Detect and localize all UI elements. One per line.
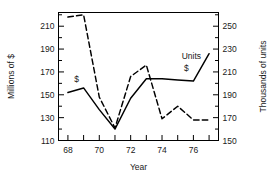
series-label-units: Units — [182, 51, 201, 61]
x-axis-tick-label: 70 — [95, 145, 105, 155]
left-axis-tick-label: 110 — [41, 136, 55, 146]
left-axis-title: Millions of $ — [6, 54, 16, 99]
right-axis-tick-label: 190 — [223, 90, 237, 100]
right-axis-tick-label: 150 — [223, 136, 237, 146]
x-axis-tick-label: 74 — [157, 145, 167, 155]
chart-container: 110130150170190210 150170190210230250 68… — [0, 0, 276, 179]
series-label-dollars-left: $ — [74, 74, 79, 84]
x-axis-title: Year — [130, 162, 147, 172]
left-axis-tick-label: 210 — [40, 21, 54, 31]
right-axis-title: Thousands of units — [258, 41, 268, 113]
x-axis-tick-label: 72 — [126, 145, 136, 155]
x-axis-tick-label: 76 — [189, 145, 199, 155]
left-axis-tick-label: 150 — [40, 90, 54, 100]
dual-axis-line-chart: 110130150170190210 150170190210230250 68… — [0, 0, 276, 179]
series-label-dollars-right: $ — [184, 63, 189, 73]
right-axis-tick-label: 210 — [223, 67, 237, 77]
x-axis-tick-label: 68 — [63, 145, 73, 155]
right-axis-tick-label: 230 — [223, 44, 237, 54]
left-axis-tick-label: 170 — [40, 67, 54, 77]
left-axis-tick-label: 190 — [40, 44, 54, 54]
left-axis-tick-label: 130 — [40, 113, 54, 123]
right-axis-tick-label: 250 — [223, 21, 237, 31]
right-axis-tick-label: 170 — [223, 113, 237, 123]
